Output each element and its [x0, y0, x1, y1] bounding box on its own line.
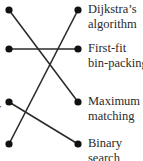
edge-L1-R3: [9, 10, 78, 102]
label-binary-search: Binary search: [88, 136, 122, 161]
node-L2: [5, 45, 12, 52]
label-maximum-matching: Maximum matching: [88, 94, 140, 124]
node-R1: [74, 6, 81, 13]
node-R2: [74, 45, 81, 52]
node-R4: [74, 140, 81, 147]
clipped-left-label: r: [0, 101, 1, 116]
label-first-fit-bin-packing: First-fit bin-packing: [88, 41, 143, 71]
node-L1: [5, 6, 12, 13]
node-L3: [5, 98, 12, 105]
node-L4: [5, 140, 12, 147]
node-R3: [74, 98, 81, 105]
label-dijkstras-algorithm: Dijkstra’s algorithm: [88, 2, 137, 32]
